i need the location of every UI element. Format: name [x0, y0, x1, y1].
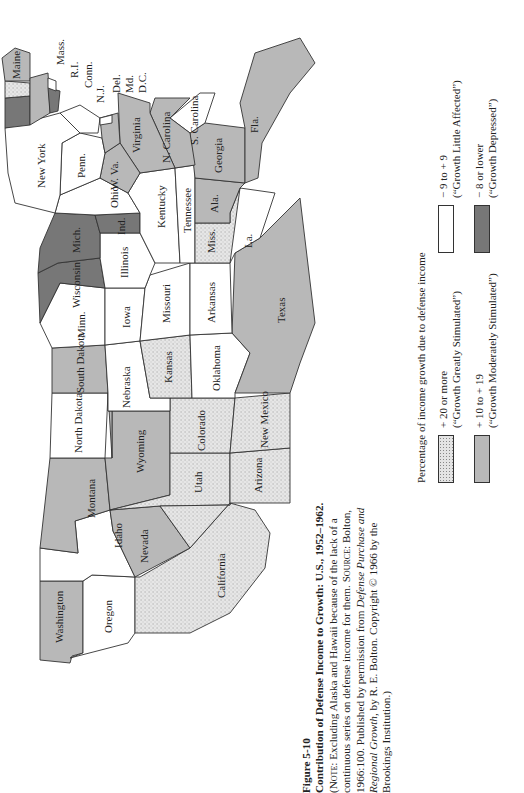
legend-range: + 20 or more [437, 291, 450, 428]
legend-swatch-stippled [438, 435, 454, 483]
state-florida [240, 38, 315, 183]
label-idaho: Idaho [112, 522, 124, 548]
label-utah: Utah [192, 471, 204, 493]
label-louisiana: La. [242, 233, 254, 248]
caption-paren: ( [327, 789, 339, 793]
label-maine: Maine [10, 51, 22, 79]
legend-range: + 10 to + 19 [473, 273, 486, 428]
legend-label: (“Growth Little Affected”) [450, 80, 463, 198]
states [2, 38, 315, 663]
state-delaware [100, 115, 112, 125]
label-mississippi: Miss. [205, 229, 217, 253]
legend-title: Percentage of income growth due to defen… [415, 252, 428, 483]
legend-label: (“Growth Moderately Stimulated”) [486, 273, 499, 428]
label-alabama: Ala. [208, 194, 220, 213]
label-pennsylvania: Penn. [75, 153, 87, 178]
legend-label: (“Growth Depressed”) [486, 99, 499, 198]
label-maryland: Md. [123, 75, 135, 93]
rotated-figure: Washington Oregon California Idaho Nevad… [0, 0, 524, 793]
label-arkansas: Arkansas [205, 282, 217, 323]
label-west-virginia: W. Va. [108, 161, 120, 190]
figure-number: Figure 5-10 [300, 493, 313, 793]
legend-label: (“Growth Greatly Stimulated”) [450, 291, 463, 428]
figure-title: Contribution of Defense Income to Growth… [313, 503, 325, 793]
label-connecticut: Conn. [82, 61, 94, 88]
label-nevada: Nevada [138, 529, 150, 563]
legend-item-depressed: − 8 or lower(“Growth Depressed”) [473, 99, 498, 253]
legend-range: − 8 or lower [473, 99, 486, 198]
label-new-jersey: N.J. [94, 85, 106, 103]
legend-range: − 9 to + 9 [437, 80, 450, 198]
label-tennessee: Tennessee [181, 188, 193, 233]
label-oregon: Oregon [102, 600, 114, 633]
label-georgia: Georgia [212, 138, 224, 173]
figure-caption: Figure 5-10 Contribution of Defense Inco… [300, 493, 394, 793]
label-new-mexico: New Mexico [258, 390, 270, 448]
legend-item-moderately-stimulated: + 10 to + 19(“Growth Moderately Stimulat… [473, 273, 498, 483]
state-connecticut [48, 88, 60, 113]
label-missouri: Missouri [160, 284, 172, 323]
label-north-carolina: N. Carolina [160, 112, 172, 163]
label-nebraska: Nebraska [120, 366, 132, 408]
label-montana: Montana [85, 479, 97, 518]
legend-swatch-white [438, 205, 454, 253]
label-california: California [215, 553, 227, 598]
label-minnesota: Minn. [75, 311, 87, 338]
label-massachusetts: Mass. [54, 39, 66, 65]
label-washington: Washington [53, 590, 65, 643]
label-arizona: Arizona [252, 457, 264, 493]
label-delaware: Del. [110, 74, 122, 93]
label-virginia: Virginia [130, 117, 142, 153]
label-south-carolina: S. Carolina [188, 95, 200, 145]
label-wyoming: Wyoming [134, 429, 146, 473]
label-indiana: Ind. [115, 217, 127, 235]
label-michigan: Mich. [70, 227, 82, 253]
label-kansas: Kansas [162, 351, 174, 383]
label-colorado: Colorado [195, 410, 207, 451]
source-label: Source [340, 549, 352, 582]
legend-swatch-medium-gray [474, 435, 490, 483]
label-florida: Fla. [248, 116, 260, 133]
note-label: Note [327, 766, 339, 790]
state-vermont [5, 96, 30, 128]
us-map: Washington Oregon California Idaho Nevad… [0, 0, 330, 793]
label-oklahoma: Oklahoma [210, 345, 222, 391]
legend-item-little-affected: − 9 to + 9(“Growth Little Affected”) [437, 80, 462, 253]
label-south-dakota: South Dakota [74, 333, 86, 393]
label-illinois: Illinois [118, 247, 130, 278]
label-new-york: New York [35, 143, 47, 188]
state-new-hampshire [5, 81, 30, 98]
legend-item-greatly-stimulated: + 20 or more(“Growth Greatly Stimulated”… [437, 291, 462, 483]
label-dc: D.C. [136, 72, 148, 93]
label-north-dakota: North Dakota [72, 393, 84, 453]
legend-swatch-dark-gray [474, 205, 490, 253]
label-kentucky: Kentucky [155, 185, 167, 228]
label-texas: Texas [275, 298, 287, 324]
label-rhode-island: R.I. [68, 61, 80, 78]
label-wisconsin: Wisconsin [70, 262, 82, 308]
label-iowa: Iowa [120, 306, 132, 328]
